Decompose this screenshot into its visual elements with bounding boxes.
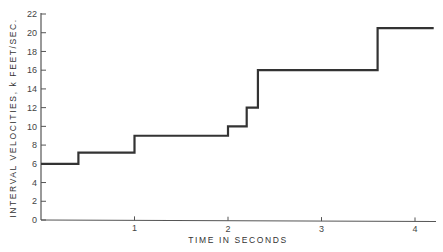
y-axis-ticks: 0246810121416182022 <box>27 9 46 225</box>
velocity-step-line <box>41 28 434 164</box>
y-tick-label: 14 <box>27 84 37 94</box>
x-tick-label: 3 <box>319 224 324 234</box>
x-axis-line <box>41 220 436 222</box>
y-tick-label: 18 <box>27 47 37 57</box>
y-tick-label: 22 <box>27 9 37 19</box>
x-tick-label: 4 <box>412 224 417 234</box>
x-axis-ticks: 1234 <box>132 216 418 234</box>
x-tick-label: 2 <box>225 224 230 234</box>
y-tick-label: 20 <box>27 28 37 38</box>
y-tick-label: 6 <box>32 159 37 169</box>
x-tick-label: 1 <box>132 223 137 233</box>
y-tick-label: 12 <box>27 103 37 113</box>
y-tick-label: 2 <box>32 196 37 206</box>
y-tick-label: 8 <box>32 140 37 150</box>
y-tick-label: 4 <box>32 178 37 188</box>
x-axis-title: TIME IN SECONDS <box>188 235 288 245</box>
y-axis-title: INTERVAL VELOCITIES, k FEET/SEC. <box>8 18 18 217</box>
y-tick-label: 10 <box>27 122 37 132</box>
y-tick-label: 16 <box>27 65 37 75</box>
y-tick-label: 0 <box>32 215 37 225</box>
step-chart: 0246810121416182022 1234 TIME IN SECONDS… <box>0 0 443 252</box>
